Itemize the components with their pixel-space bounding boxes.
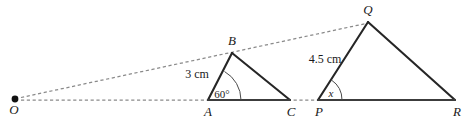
side-AB-length-label: 3 cm — [185, 67, 209, 81]
geometry-figure: O A B C P Q R 3 cm 4.5 cm 60° x — [0, 0, 471, 123]
vertex-label-P: P — [314, 104, 323, 119]
vertex-label-R: R — [452, 104, 461, 119]
vertex-label-B: B — [228, 33, 236, 48]
angle-BAC-label: 60° — [214, 88, 229, 100]
vertex-label-C: C — [287, 104, 296, 119]
vertex-label-O: O — [9, 102, 19, 117]
vertex-label-Q: Q — [363, 2, 373, 17]
side-PQ-length-label: 4.5 cm — [309, 52, 342, 66]
vertex-label-A: A — [203, 104, 212, 119]
geometry-canvas: O A B C P Q R 3 cm 4.5 cm 60° x — [0, 0, 471, 123]
edge-QR — [368, 22, 455, 100]
angle-QPR-label: x — [328, 87, 334, 99]
